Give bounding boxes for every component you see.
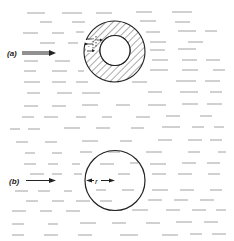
flow-arrow-icon — [26, 178, 56, 183]
radius-label: r — [95, 177, 98, 186]
flow-arrow-icon — [22, 50, 56, 56]
diagram-canvas: (a) (b) — [0, 0, 234, 241]
panel-b: (b) r — [9, 151, 145, 211]
panel-a: (a) — [7, 21, 145, 82]
panel-a-label: (a) — [7, 49, 17, 58]
radius-arrow-icon — [86, 179, 115, 183]
panel-b-label: (b) — [9, 177, 20, 186]
